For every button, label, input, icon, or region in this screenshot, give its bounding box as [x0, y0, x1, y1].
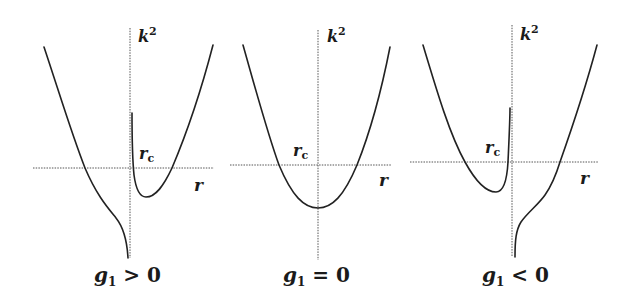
caption-g1-zero: g1 = 0 [283, 263, 350, 289]
parabola-curve [243, 45, 390, 208]
caption-g1-negative: g1 < 0 [482, 263, 549, 289]
rc-label: rc [139, 144, 154, 165]
k2-label: k2 [520, 23, 539, 44]
k2-label: k2 [327, 25, 346, 46]
panel-g1-positive: k2 rc r g1 > 0 [33, 25, 214, 289]
r-label: r [580, 168, 590, 188]
left-branch-curve [423, 45, 510, 192]
k2-label: k2 [138, 25, 157, 46]
r-label: r [194, 175, 204, 195]
left-branch-curve [44, 47, 128, 258]
panel-g1-zero: k2 rc r g1 = 0 [230, 25, 392, 289]
r-label: r [379, 170, 389, 190]
rc-label: rc [293, 141, 308, 162]
caption-g1-positive: g1 > 0 [94, 263, 161, 289]
panel-g1-negative: k2 rc r g1 < 0 [410, 23, 599, 289]
dispersion-diagram: k2 rc r g1 > 0 k2 rc r g1 = 0 k2 rc r g1… [0, 0, 627, 298]
right-branch-curve [515, 45, 597, 257]
rc-label: rc [485, 138, 500, 159]
